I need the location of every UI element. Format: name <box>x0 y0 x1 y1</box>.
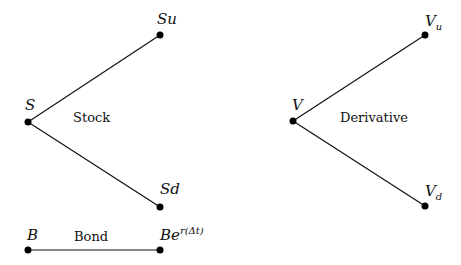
stock-root-node <box>25 119 32 126</box>
stock-down-node <box>157 204 164 211</box>
derivative-down-label-sub: d <box>436 191 442 202</box>
derivative-up-label-base: V <box>425 12 436 30</box>
stock-up-label: Su <box>157 10 177 28</box>
derivative-down-label-base: V <box>425 182 436 200</box>
stock-down-edge <box>28 122 160 207</box>
derivative-down-edge <box>293 121 425 206</box>
derivative-root-label: V <box>292 96 303 114</box>
derivative-down-label: Vd <box>425 182 442 200</box>
derivative-up-edge <box>293 35 425 121</box>
derivative-down-node <box>422 203 429 210</box>
stock-title: Stock <box>73 110 110 125</box>
stock-down-label: Sd <box>160 180 180 198</box>
stock-up-edge <box>28 35 160 122</box>
bond-start-node <box>25 247 32 254</box>
binomial-tree-diagram <box>0 0 461 265</box>
bond-title: Bond <box>74 229 108 244</box>
derivative-up-node <box>422 32 429 39</box>
bond-start-label: B <box>27 226 38 244</box>
derivative-up-label: Vu <box>425 12 442 30</box>
bond-end-label: Ber(Δt) <box>160 226 204 244</box>
bond-end-label-base: Be <box>160 226 180 244</box>
derivative-up-label-sub: u <box>436 21 442 32</box>
derivative-root-node <box>290 118 297 125</box>
bond-end-label-exponent: r(Δt) <box>180 225 204 236</box>
derivative-title: Derivative <box>340 110 408 125</box>
stock-up-node <box>157 32 164 39</box>
stock-root-label: S <box>25 96 35 114</box>
bond-end-node <box>157 247 164 254</box>
